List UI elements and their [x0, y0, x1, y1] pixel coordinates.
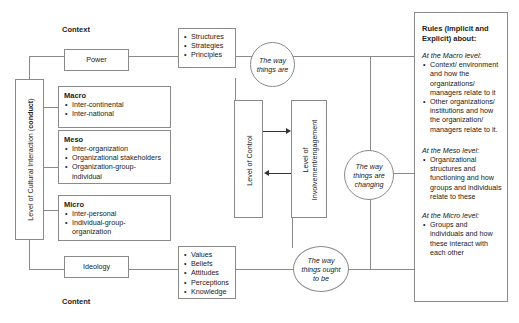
micro-level-box: Micro Inter-personal Individual-group-or… — [58, 195, 171, 241]
arrow-line-left — [269, 173, 291, 174]
connector — [29, 56, 65, 57]
level-of-involvement-box: Level of Involvement/engagement — [291, 100, 327, 218]
axis-label-prefix: Level of Cultural Interaction ( — [26, 129, 35, 221]
connector — [128, 269, 178, 270]
rules-macro-item: Other organizations/ institutions and ho… — [422, 97, 502, 134]
macro-item: Inter-national — [64, 109, 166, 118]
connector — [292, 218, 293, 248]
rules-macro-heading: At the Macro level: — [422, 51, 502, 60]
circle-things-changing-text: The way things are changing — [351, 162, 387, 189]
rules-meso-heading: At the Meso level: — [422, 146, 502, 155]
context-label: Context — [62, 25, 90, 34]
involvement-line1: Level of — [301, 101, 310, 219]
circle-things-are: The way things are — [250, 42, 295, 87]
arrow-left-icon — [264, 170, 269, 176]
micro-item: Individual-group-organization — [64, 218, 142, 236]
arrow-right-icon — [286, 128, 291, 134]
micro-item: Inter-personal — [64, 209, 166, 218]
arrow-line-right — [263, 131, 286, 132]
connector — [43, 210, 58, 211]
meso-item: Organization-group-individual — [64, 162, 142, 180]
connector — [29, 240, 30, 270]
level-of-control-box: Level of Control — [234, 100, 263, 218]
ideology-items-box: Values Beliefs Attitudes Perceptions Kno… — [178, 246, 236, 299]
involvement-line2: Involvement/engagement — [310, 101, 319, 219]
axis-label-suffix: ) — [26, 98, 35, 100]
connector — [29, 56, 30, 79]
connector — [235, 78, 236, 102]
connector — [43, 107, 58, 108]
circle-things-are-text: The way things are — [256, 56, 289, 74]
power-box: Power — [64, 49, 129, 71]
connector — [29, 269, 65, 270]
axis-label-bold: conduct — [26, 101, 35, 129]
rules-macro-item: Context/ environment and how the organiz… — [422, 60, 502, 97]
macro-level-box: Macro Inter-continental Inter-national — [58, 86, 171, 128]
cultural-interaction-axis-box: Level of Cultural Interaction (conduct) — [15, 79, 44, 240]
power-item: Strategies — [183, 41, 233, 50]
meso-title: Meso — [64, 135, 166, 144]
ideology-label: Ideology — [83, 262, 110, 271]
circle-things-changing: The way things are changing — [344, 150, 394, 200]
meso-item: Inter-organization — [64, 144, 166, 153]
ideology-item: Values — [183, 250, 233, 259]
connector — [128, 56, 178, 57]
power-items-box: Structures Strategies Principles — [178, 28, 236, 68]
circle-things-ought-text: The way things ought to be — [301, 256, 341, 283]
power-item: Principles — [183, 50, 233, 59]
power-item: Structures — [183, 32, 233, 41]
rules-meso-item: Organizational structures and functionin… — [422, 155, 502, 201]
level-of-involvement-label: Level of Involvement/engagement — [301, 101, 319, 219]
rules-box: Rules (Implicit and Explicit) about: At … — [414, 12, 508, 302]
meso-item: Organizational stakeholders — [64, 153, 166, 162]
meso-level-box: Meso Inter-organization Organizational s… — [58, 130, 171, 184]
power-label: Power — [86, 55, 106, 64]
ideology-item: Attitudes — [183, 268, 233, 277]
micro-title: Micro — [64, 200, 166, 209]
ideology-box: Ideology — [64, 256, 129, 278]
macro-title: Macro — [64, 91, 166, 100]
rules-title: Rules (Implicit and Explicit) about: — [422, 24, 502, 43]
ideology-item: Perceptions — [183, 278, 233, 287]
cultural-interaction-axis-label: Level of Cultural Interaction (conduct) — [26, 79, 35, 240]
content-label: Content — [62, 297, 90, 306]
rules-micro-item: Groups and individuals and how these int… — [422, 220, 502, 257]
connector — [43, 167, 58, 168]
macro-item: Inter-continental — [64, 100, 166, 109]
level-of-control-label: Level of Control — [245, 102, 254, 220]
ideology-item: Beliefs — [183, 259, 233, 268]
ideology-item: Knowledge — [183, 287, 233, 296]
rules-micro-heading: At the Micro level: — [422, 211, 502, 220]
circle-things-ought: The way things ought to be — [293, 246, 349, 292]
